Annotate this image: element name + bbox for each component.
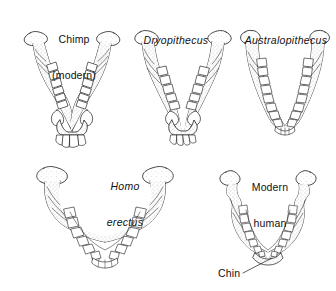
chimp-incisors	[56, 135, 86, 147]
label-modern-human-line2: human	[241, 217, 299, 229]
label-homo-erectus-line1: Homo	[97, 180, 153, 192]
label-dryopithecus: Dryopithecus	[137, 10, 215, 70]
label-modern-human-line1: Modern	[241, 181, 299, 193]
label-australopithecus-line1: Australopithecus	[236, 34, 336, 46]
label-chimp-line1: Chimp	[48, 33, 100, 45]
label-modern-human: Modern human	[241, 157, 299, 253]
label-homo-erectus: Homo erectus	[97, 156, 153, 252]
label-chimp-line2: (modern)	[48, 69, 100, 81]
modern-human-chin	[253, 253, 283, 265]
label-chimp: Chimp (modern)	[48, 9, 100, 105]
label-homo-erectus-line2: erectus	[97, 216, 153, 228]
annotation-chin-label: Chin	[218, 267, 240, 279]
dryopithecus-incisors	[170, 135, 196, 145]
label-australopithecus: Australopithecus	[236, 10, 336, 70]
homo-erectus-teeth-left	[64, 207, 101, 260]
hominid-jaw-comparison-figure: Chimp (modern) Dryopithecus Australopith…	[0, 0, 336, 291]
label-dryopithecus-line1: Dryopithecus	[137, 34, 215, 46]
